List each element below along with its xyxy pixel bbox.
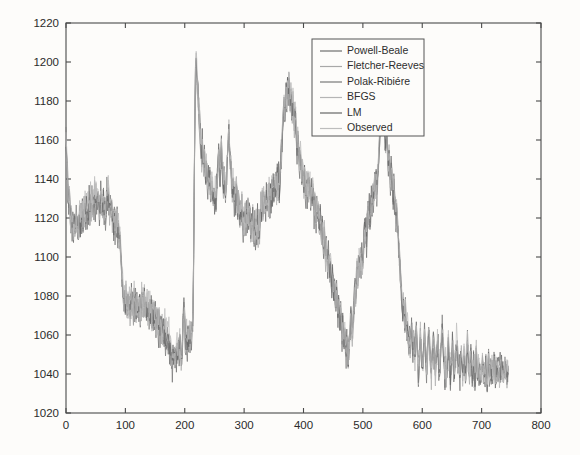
legend-label: Fletcher-Reeves [347,59,424,71]
x-tick-label: 500 [353,419,372,431]
y-tick-label: 1020 [33,407,59,419]
x-tick-label: 300 [235,419,254,431]
x-tick-label: 600 [413,419,432,431]
y-tick-label: 1120 [34,212,59,224]
legend-label: BFGS [347,90,376,102]
y-tick-label: 1040 [33,368,59,380]
x-tick-label: 200 [175,419,194,431]
y-tick-label: 1080 [33,290,59,302]
chart-legend: Powell-BealeFletcher-ReevesPolak-Ribiére… [312,39,424,136]
x-tick-label: 400 [294,419,313,431]
y-tick-label: 1180 [34,95,59,107]
x-tick-label: 0 [63,419,69,431]
x-tick-label: 100 [116,419,135,431]
legend-label: LM [347,106,362,118]
y-tick-label: 1100 [34,251,59,263]
line-chart: 1020104010601080110011201140116011801200… [0,0,580,455]
y-tick-label: 1220 [33,17,59,29]
y-tick-label: 1200 [33,56,59,68]
y-tick-label: 1140 [34,173,59,185]
x-tick-label: 700 [472,419,491,431]
legend-label: Powell-Beale [347,44,408,56]
legend-label: Observed [347,121,393,133]
chart-figure: 1020104010601080110011201140116011801200… [0,0,580,455]
x-tick-label: 800 [531,419,550,431]
legend-label: Polak-Ribiére [347,75,410,87]
y-tick-label: 1060 [33,329,59,341]
y-tick-label: 1160 [34,134,59,146]
